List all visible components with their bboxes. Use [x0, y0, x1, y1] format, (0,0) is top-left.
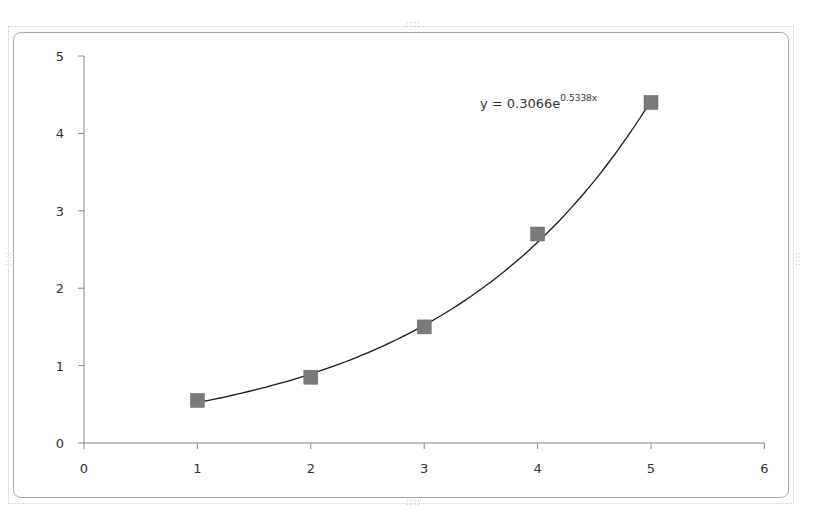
data-series[interactable] — [190, 95, 658, 407]
trendline-equation-label[interactable]: y = 0.3066e0.5338x — [480, 93, 598, 111]
scatter-plot: 0123456012345 y = 0.3066e0.5338x — [0, 0, 826, 531]
y-tick-label: 0 — [56, 436, 64, 451]
data-point-marker[interactable] — [417, 320, 431, 334]
data-point-marker[interactable] — [531, 227, 545, 241]
y-tick-label: 3 — [56, 204, 64, 219]
y-tick-label: 1 — [56, 359, 64, 374]
x-tick-label: 4 — [533, 461, 541, 476]
x-tick-label: 0 — [80, 461, 88, 476]
x-tick-label: 2 — [307, 461, 315, 476]
y-tick-label: 5 — [56, 49, 64, 64]
x-tick-label: 3 — [420, 461, 428, 476]
data-point-marker[interactable] — [644, 95, 658, 109]
data-point-marker[interactable] — [190, 393, 204, 407]
y-tick-label: 4 — [56, 126, 64, 141]
data-point-marker[interactable] — [304, 370, 318, 384]
y-tick-label: 2 — [56, 281, 64, 296]
axes: 0123456012345 — [56, 49, 769, 476]
x-tick-label: 6 — [760, 461, 768, 476]
trendline[interactable] — [197, 101, 651, 403]
x-tick-label: 1 — [193, 461, 201, 476]
trendline-curve[interactable] — [197, 101, 651, 403]
x-tick-label: 5 — [647, 461, 655, 476]
